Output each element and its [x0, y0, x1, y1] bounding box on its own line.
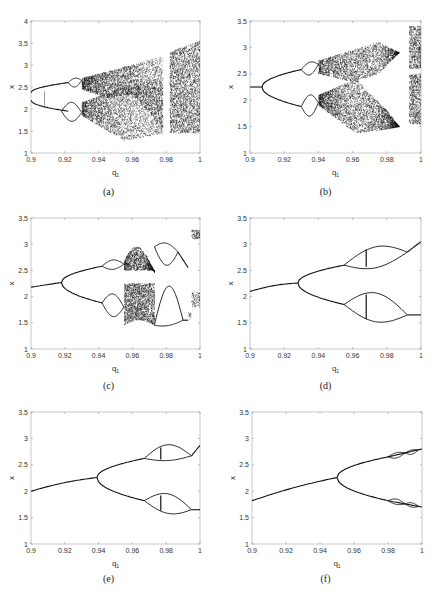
- x-axis-label: q1: [332, 364, 339, 374]
- y-tick-label: 3.5: [18, 40, 28, 47]
- x-tick-label: 0.9: [245, 352, 255, 359]
- y-tick-label: 3.5: [18, 215, 28, 222]
- bifurcation-chart-d: 0.90.920.940.960.98111.522.533.5q1x: [217, 197, 434, 394]
- x-tick-label: 0.96: [347, 547, 361, 554]
- y-tick-label: 2.5: [18, 461, 28, 468]
- x-tick-label: 1: [198, 352, 202, 359]
- x-tick-label: 0.92: [277, 352, 291, 359]
- x-tick-label: 0.9: [26, 156, 36, 163]
- x-tick-label: 0.98: [159, 352, 173, 359]
- bifurcation-chart-b: 0.90.920.940.960.98111.522.533.5q1x: [217, 0, 434, 197]
- y-tick-label: 2: [245, 488, 249, 495]
- x-tick-label: 1: [198, 156, 202, 163]
- x-tick-label: 0.92: [58, 547, 72, 554]
- bifurcation-chart-c: 0.90.920.940.960.98111.522.533.5q1x: [0, 197, 217, 394]
- x-axis-label: q1: [333, 559, 340, 569]
- caption-d: (d): [217, 380, 434, 391]
- y-axis-label: x: [226, 282, 235, 286]
- panel-a: 0.90.920.940.960.98111.522.533.54q1x (a): [0, 0, 217, 197]
- y-tick-label: 3: [243, 44, 247, 51]
- x-tick-label: 0.96: [126, 156, 140, 163]
- y-tick-label: 2.5: [239, 461, 249, 468]
- x-tick-label: 0.96: [346, 352, 360, 359]
- x-tick-label: 0.9: [245, 156, 255, 163]
- caption-b: (b): [217, 186, 434, 197]
- y-tick-label: 2.5: [18, 84, 28, 91]
- x-tick-label: 0.9: [247, 547, 257, 554]
- x-tick-label: 0.94: [92, 352, 106, 359]
- y-tick-label: 1: [243, 150, 247, 157]
- y-tick-label: 4: [24, 18, 28, 25]
- x-tick-label: 0.94: [312, 156, 326, 163]
- x-tick-label: 1: [419, 352, 423, 359]
- y-tick-label: 3.5: [237, 215, 247, 222]
- x-tick-label: 0.96: [126, 352, 140, 359]
- plot-frame: [250, 218, 421, 349]
- panel-c: 0.90.920.940.960.98111.522.533.5q1x (c): [0, 197, 217, 394]
- plot-frame: [31, 412, 200, 544]
- bifurcation-curves: [252, 449, 422, 507]
- y-tick-label: 1.5: [18, 319, 28, 326]
- x-axis-label: q1: [112, 364, 119, 374]
- y-tick-label: 2: [24, 488, 28, 495]
- panel-e: 0.90.920.940.960.98111.522.533.5q1x (e): [0, 391, 217, 588]
- y-tick-label: 3: [24, 62, 28, 69]
- x-tick-label: 0.98: [159, 156, 173, 163]
- x-tick-label: 0.94: [313, 547, 327, 554]
- y-tick-label: 1: [24, 150, 28, 157]
- bifurcation-chart-a: 0.90.920.940.960.98111.522.533.54q1x: [0, 0, 217, 197]
- panel-f: 0.90.920.940.960.98111.522.533.5q1x (f): [217, 391, 434, 588]
- y-tick-label: 1.5: [18, 514, 28, 521]
- y-tick-label: 1: [243, 346, 247, 353]
- bifurcation-curves: [31, 230, 201, 326]
- x-tick-label: 0.94: [312, 352, 326, 359]
- x-tick-label: 0.92: [58, 156, 72, 163]
- y-axis-label: x: [228, 476, 237, 480]
- x-tick-label: 0.96: [346, 156, 360, 163]
- y-tick-label: 1: [24, 541, 28, 548]
- y-tick-label: 3: [24, 241, 28, 248]
- y-axis-label: x: [7, 282, 16, 286]
- x-axis-label: q1: [332, 168, 339, 178]
- y-tick-label: 3.5: [237, 18, 247, 25]
- y-tick-label: 2.5: [18, 267, 28, 274]
- y-tick-label: 3.5: [239, 409, 249, 416]
- x-tick-label: 0.92: [277, 156, 291, 163]
- caption-a: (a): [0, 186, 217, 197]
- x-tick-label: 0.9: [26, 547, 36, 554]
- y-tick-label: 3: [245, 435, 249, 442]
- y-tick-label: 2.5: [237, 267, 247, 274]
- caption-e: (e): [0, 573, 217, 584]
- x-axis-label: q1: [112, 168, 119, 178]
- x-tick-label: 0.92: [58, 352, 72, 359]
- x-tick-label: 0.92: [279, 547, 293, 554]
- y-tick-label: 1.5: [18, 128, 28, 135]
- bifurcation-curves: [31, 41, 201, 140]
- caption-c: (c): [0, 380, 217, 391]
- bifurcation-chart-e: 0.90.920.940.960.98111.522.533.5q1x: [0, 391, 217, 588]
- bifurcation-chart-f: 0.90.920.940.960.98111.522.533.5q1x: [217, 391, 434, 588]
- x-tick-label: 0.98: [381, 547, 395, 554]
- y-tick-label: 1: [24, 346, 28, 353]
- panel-d: 0.90.920.940.960.98111.522.533.5q1x (d): [217, 197, 434, 394]
- bifurcation-curves: [250, 26, 422, 132]
- x-tick-label: 0.98: [380, 352, 394, 359]
- y-axis-label: x: [226, 85, 235, 89]
- caption-f: (f): [217, 573, 434, 584]
- x-tick-label: 0.9: [26, 352, 36, 359]
- x-tick-label: 0.98: [380, 156, 394, 163]
- x-axis-label: q1: [112, 559, 119, 569]
- y-tick-label: 1.5: [239, 514, 249, 521]
- plot-frame: [250, 21, 421, 153]
- x-tick-label: 0.96: [126, 547, 140, 554]
- y-tick-label: 1.5: [237, 123, 247, 130]
- x-tick-label: 1: [198, 547, 202, 554]
- y-tick-label: 2: [243, 97, 247, 104]
- bifurcation-curves: [31, 445, 200, 514]
- bifurcation-curves: [250, 242, 421, 323]
- x-tick-label: 0.94: [92, 156, 106, 163]
- x-tick-label: 1: [419, 156, 423, 163]
- y-tick-label: 2: [24, 106, 28, 113]
- y-tick-label: 2.5: [237, 70, 247, 77]
- x-tick-label: 0.98: [159, 547, 173, 554]
